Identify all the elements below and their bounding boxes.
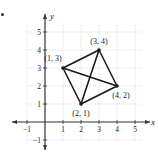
y-tick-label: 3	[37, 64, 41, 73]
data-point	[115, 84, 119, 88]
y-axis-label: y	[49, 11, 54, 21]
plot-svg: xy−112345−112345(1, 3)(3, 4)(4, 2)(2, 1)	[0, 0, 158, 156]
y-tick-label: 1	[37, 100, 41, 109]
x-tick-label: −1	[23, 125, 31, 134]
data-point	[97, 48, 101, 52]
x-tick-label: 1	[61, 125, 65, 134]
data-point	[61, 66, 65, 70]
point-label: (3, 4)	[90, 37, 108, 46]
y-tick-label: 2	[37, 82, 41, 91]
x-axis-label: x	[150, 117, 155, 127]
x-axis-arrow-icon	[145, 120, 150, 124]
coordinate-plot: xy−112345−112345(1, 3)(3, 4)(4, 2)(2, 1)	[0, 0, 158, 156]
x-tick-label: 5	[133, 125, 137, 134]
y-tick-label: −1	[33, 136, 41, 145]
point-label: (1, 3)	[44, 54, 62, 63]
y-axis-arrow-down-icon	[43, 145, 47, 150]
point-label: (4, 2)	[112, 91, 130, 100]
y-tick-label: 5	[37, 28, 41, 37]
x-tick-label: 3	[97, 125, 101, 134]
x-tick-label: 4	[115, 125, 119, 134]
point-label: (2, 1)	[72, 109, 90, 118]
x-tick-label: 2	[79, 125, 83, 134]
data-point	[79, 102, 83, 106]
y-axis-arrow-icon	[43, 14, 47, 19]
y-tick-label: 4	[37, 46, 41, 55]
x-axis-arrow-left-icon	[12, 120, 17, 124]
